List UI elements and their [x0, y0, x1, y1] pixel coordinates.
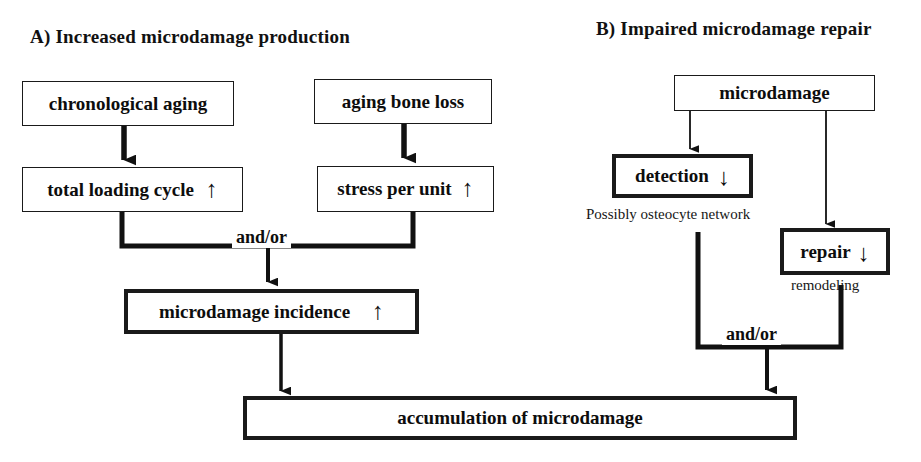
- panel-b-title: B) Impaired microdamage repair: [596, 18, 872, 40]
- increase-arrow-icon: ↑: [206, 177, 218, 201]
- node-repair-label: repair: [800, 241, 850, 263]
- node-total-loading-cycle-label: total loading cycle: [47, 179, 194, 201]
- panel-a-title: A) Increased microdamage production: [30, 26, 350, 48]
- node-total-loading-cycle: total loading cycle ↑: [22, 167, 243, 212]
- node-accumulation-of-microdamage: accumulation of microdamage: [243, 396, 797, 440]
- figure-canvas: A) Increased microdamage production chro…: [0, 0, 921, 462]
- node-stress-per-unit: stress per unit ↑: [317, 166, 494, 212]
- decrease-arrow-icon: ↓: [718, 165, 730, 189]
- node-aging-bone-loss: aging bone loss: [314, 79, 492, 124]
- decrease-arrow-icon: ↓: [858, 241, 870, 265]
- node-microdamage-incidence-label: microdamage incidence: [159, 301, 350, 323]
- node-microdamage: microdamage: [674, 75, 875, 111]
- annotation-detection-note: Possibly osteocyte network: [586, 206, 750, 223]
- node-repair: repair ↓: [780, 228, 890, 275]
- increase-arrow-icon: ↑: [372, 299, 384, 323]
- node-detection-label: detection: [635, 165, 709, 187]
- increase-arrow-icon: ↑: [462, 176, 474, 200]
- node-accumulation-label: accumulation of microdamage: [397, 407, 643, 429]
- node-microdamage-incidence: microdamage incidence ↑: [124, 289, 419, 334]
- node-aging-bone-loss-label: aging bone loss: [342, 91, 464, 113]
- annotation-repair-note: remodeling: [791, 277, 859, 294]
- junction-label-b: and/or: [722, 324, 781, 345]
- junction-label-a: and/or: [232, 227, 291, 248]
- node-chronological-aging: chronological aging: [22, 81, 234, 126]
- node-detection: detection ↓: [612, 154, 753, 198]
- node-chronological-aging-label: chronological aging: [49, 93, 208, 115]
- node-microdamage-label: microdamage: [719, 82, 829, 104]
- node-stress-per-unit-label: stress per unit: [337, 178, 451, 200]
